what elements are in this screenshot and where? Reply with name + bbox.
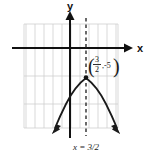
vertex-label-close-paren: ) (113, 55, 120, 78)
y-axis-arrowhead (66, 11, 75, 20)
y-axis (66, 11, 75, 138)
vertex-label-open-paren: ( (88, 55, 95, 78)
vertex-label-denominator: 2 (95, 65, 99, 74)
parabola-figure: y x ( 3 2 ,-5 ) x = 3/2 (0, 0, 151, 157)
x-axis-arrowhead (124, 44, 133, 53)
vertex-label-y-value: ,-5 (102, 61, 111, 70)
y-axis-label: y (67, 0, 74, 12)
vertex-label-numerator: 3 (95, 55, 99, 64)
vertex-label: ( 3 2 ,-5 ) (88, 55, 120, 78)
axis-of-symmetry-label: x = 3/2 (72, 142, 100, 152)
x-axis (12, 44, 133, 53)
x-axis-label: x (137, 42, 144, 54)
